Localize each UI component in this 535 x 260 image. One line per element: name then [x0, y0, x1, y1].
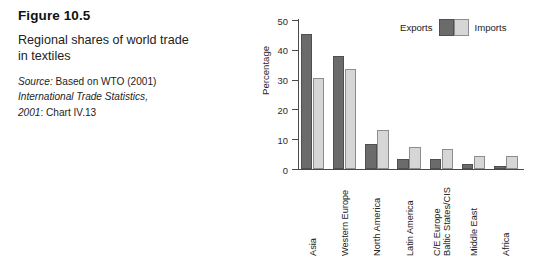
- source-prefix: Source:: [18, 76, 53, 87]
- source-line-3-italic: 2001: [18, 107, 40, 118]
- y-tick-label: 50: [278, 15, 288, 26]
- source-line-2: International Trade Statistics,: [18, 89, 218, 104]
- bar-imports: [506, 156, 518, 169]
- bar-chart: Exports Imports Percentage 01020304050 A…: [262, 0, 535, 260]
- plot-area: [298, 20, 524, 169]
- x-axis-label: Africa: [501, 233, 511, 257]
- bar-exports: [365, 144, 377, 169]
- figure-number: Figure 10.5: [18, 8, 218, 25]
- y-tick-label: 0: [283, 164, 288, 175]
- bar-exports: [462, 164, 474, 169]
- x-axis-label: C/E EuropeBaltic States/CIS: [432, 187, 453, 256]
- x-axis-label: Latin America: [405, 200, 415, 256]
- bar-imports: [474, 156, 486, 169]
- bar-imports: [345, 69, 357, 169]
- y-tick-label: 20: [278, 104, 288, 115]
- source-line-1-rest: Based on WTO (2001): [53, 76, 157, 87]
- bar-exports: [333, 56, 345, 169]
- y-tick-mark: [292, 169, 298, 170]
- figure-source-note: Source: Based on WTO (2001) Internationa…: [18, 74, 218, 120]
- x-axis-label: North America: [372, 198, 382, 256]
- y-tick-label: 10: [278, 134, 288, 145]
- x-axis-label: Middle East: [469, 208, 479, 256]
- bar-imports: [442, 149, 454, 169]
- bar-imports: [409, 147, 421, 169]
- y-axis-title: Percentage: [260, 46, 271, 95]
- source-line-3-rest: : Chart IV.13: [40, 107, 96, 118]
- source-line-1: Source: Based on WTO (2001): [18, 74, 218, 89]
- bar-exports: [430, 159, 442, 169]
- figure-title: Regional shares of world trade in textil…: [18, 32, 196, 65]
- bar-exports: [301, 34, 313, 169]
- source-line-3: 2001: Chart IV.13: [18, 105, 218, 120]
- bar-exports: [397, 159, 409, 169]
- bar-imports: [313, 78, 325, 169]
- x-axis-label: Asia: [308, 238, 318, 256]
- y-tick: 0: [292, 169, 298, 170]
- y-tick-label: 40: [278, 45, 288, 56]
- figure-caption-block: Figure 10.5 Regional shares of world tra…: [18, 8, 218, 120]
- bar-exports: [494, 166, 506, 169]
- x-axis-label: Western Europe: [340, 190, 350, 256]
- x-axis-line: [298, 169, 524, 170]
- bar-imports: [377, 130, 389, 169]
- y-tick-label: 30: [278, 75, 288, 86]
